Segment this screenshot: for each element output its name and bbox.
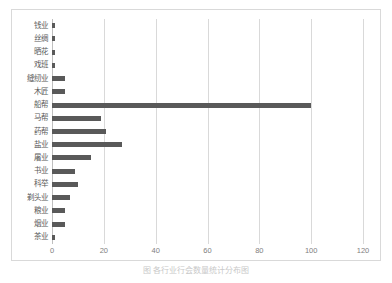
bar-row[interactable] [52,151,363,164]
y-axis-category-labels: 钱业丝绸晒花戏班缝纫业木匠船帮马帮药帮盐业屠业书业科举剃头业粮业烟业茶业 [12,19,50,244]
y-axis-label: 烟业 [10,220,48,228]
x-axis-tick-label: 100 [305,246,318,256]
bar-series [52,19,363,244]
bar-row[interactable] [52,204,363,217]
bar[interactable] [52,142,122,147]
y-axis-label: 书业 [10,167,48,175]
bar[interactable] [52,103,311,108]
bar[interactable] [52,63,55,68]
bar-row[interactable] [52,191,363,204]
y-axis-label: 晒花 [10,48,48,56]
bar-row[interactable] [52,45,363,58]
x-axis-tick-labels: 020406080100120 [52,246,363,260]
y-axis-label: 钱业 [10,22,48,30]
y-axis-label: 马帮 [10,114,48,122]
bar-row[interactable] [52,231,363,244]
figure-caption: 图 各行业行会数量统计分布图 [0,266,392,276]
bar[interactable] [52,195,70,200]
bar[interactable] [52,116,101,121]
bar[interactable] [52,23,55,28]
figure-container: 钱业丝绸晒花戏班缝纫业木匠船帮马帮药帮盐业屠业书业科举剃头业粮业烟业茶业 020… [0,0,392,283]
bar-row[interactable] [52,85,363,98]
plot-area [52,19,363,244]
bar-row[interactable] [52,218,363,231]
bar-row[interactable] [52,19,363,32]
y-axis-label: 科举 [10,180,48,188]
y-axis-label: 粮业 [10,207,48,215]
y-axis-label: 屠业 [10,154,48,162]
y-axis-label: 木匠 [10,88,48,96]
y-axis-label: 缝纫业 [10,75,48,83]
x-axis-tick-label: 0 [50,246,54,256]
x-axis-tick-label: 120 [357,246,370,256]
bar[interactable] [52,155,91,160]
bar[interactable] [52,50,55,55]
bar[interactable] [52,76,65,81]
y-axis-label: 茶业 [10,233,48,241]
x-axis-tick-label: 60 [203,246,211,256]
bar[interactable] [52,235,55,240]
bar-row[interactable] [52,98,363,111]
bar-row[interactable] [52,178,363,191]
bar-row[interactable] [52,72,363,85]
gridline-120 [363,19,364,244]
y-axis-label: 盐业 [10,141,48,149]
bar-row[interactable] [52,165,363,178]
bar[interactable] [52,222,65,227]
bar[interactable] [52,208,65,213]
y-axis-label: 船帮 [10,101,48,109]
bar[interactable] [52,169,75,174]
y-axis-label: 药帮 [10,128,48,136]
y-axis-label: 丝绸 [10,35,48,43]
bar-row[interactable] [52,32,363,45]
x-axis-tick-label: 80 [255,246,263,256]
bar[interactable] [52,129,106,134]
x-axis-tick-label: 40 [151,246,159,256]
bar[interactable] [52,182,78,187]
bar-row[interactable] [52,138,363,151]
bar[interactable] [52,36,55,41]
y-axis-label: 戏班 [10,61,48,69]
x-axis-tick-label: 20 [100,246,108,256]
chart-frame: 钱业丝绸晒花戏班缝纫业木匠船帮马帮药帮盐业屠业书业科举剃头业粮业烟业茶业 020… [11,9,381,261]
bar[interactable] [52,89,65,94]
bar-row[interactable] [52,125,363,138]
bar-row[interactable] [52,112,363,125]
bar-row[interactable] [52,59,363,72]
y-axis-label: 剃头业 [10,194,48,202]
